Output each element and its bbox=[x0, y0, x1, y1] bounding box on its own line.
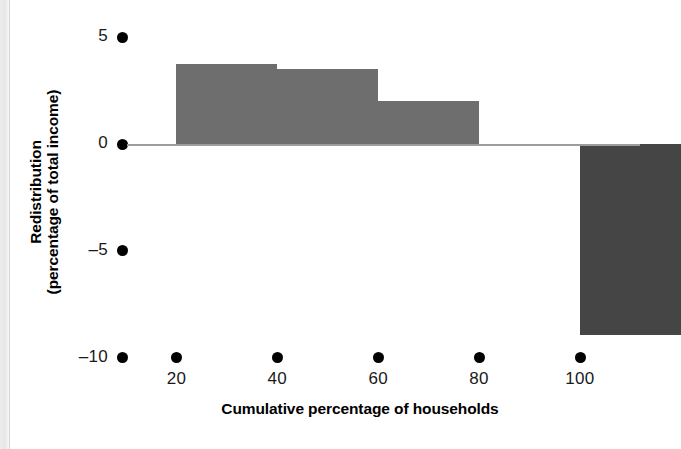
y-tick-label: 5 bbox=[40, 26, 108, 46]
y-tick-label: –10 bbox=[40, 347, 108, 367]
x-tick-dot bbox=[575, 352, 586, 363]
y-tick-label: 0 bbox=[40, 133, 108, 153]
x-tick-dot bbox=[171, 352, 182, 363]
bar bbox=[378, 101, 479, 144]
x-axis-title: Cumulative percentage of households bbox=[130, 400, 590, 418]
y-axis-title-line-2: (percentage of total income) bbox=[44, 90, 61, 295]
x-tick-dot bbox=[474, 352, 485, 363]
y-tick-dot bbox=[117, 139, 128, 150]
x-tick-label: 40 bbox=[237, 369, 317, 389]
x-tick-label: 20 bbox=[136, 369, 216, 389]
y-tick-dot bbox=[117, 245, 128, 256]
y-tick-dot bbox=[117, 352, 128, 363]
x-tick-dot bbox=[272, 352, 283, 363]
x-tick-label: 80 bbox=[439, 369, 519, 389]
bar bbox=[580, 144, 681, 335]
bar bbox=[277, 69, 378, 144]
y-tick-label: –5 bbox=[40, 240, 108, 260]
x-tick-dot bbox=[373, 352, 384, 363]
x-tick-label: 100 bbox=[540, 369, 620, 389]
bar bbox=[176, 64, 277, 144]
y-axis-title-line-1: Redistribution bbox=[27, 140, 44, 244]
x-tick-label: 60 bbox=[338, 369, 418, 389]
zero-baseline bbox=[127, 144, 640, 146]
y-tick-dot bbox=[117, 32, 128, 43]
y-axis-title: Redistribution (percentage of total inco… bbox=[21, 27, 67, 357]
